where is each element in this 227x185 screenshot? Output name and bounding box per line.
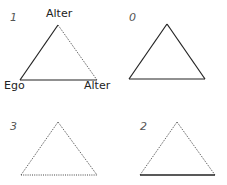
edge-right bbox=[58, 122, 97, 175]
edge-left bbox=[21, 122, 58, 175]
edge-right bbox=[177, 122, 215, 175]
edge-left bbox=[129, 24, 167, 79]
triad-triangle-1 bbox=[0, 0, 113, 92]
edge-right bbox=[167, 24, 205, 79]
triad-triangle-2 bbox=[113, 92, 227, 185]
triad-panel-2: 2 bbox=[113, 92, 227, 185]
triad-panel-1: 1 Alter Ego Alter bbox=[0, 0, 113, 92]
edge-left bbox=[20, 25, 58, 80]
triad-panel-0: 0 bbox=[113, 0, 227, 92]
triad-triangle-0 bbox=[113, 0, 227, 92]
triad-triangle-3 bbox=[0, 92, 113, 185]
triad-panel-3: 3 bbox=[0, 92, 113, 185]
edge-right bbox=[58, 25, 97, 80]
edge-left bbox=[140, 122, 177, 175]
